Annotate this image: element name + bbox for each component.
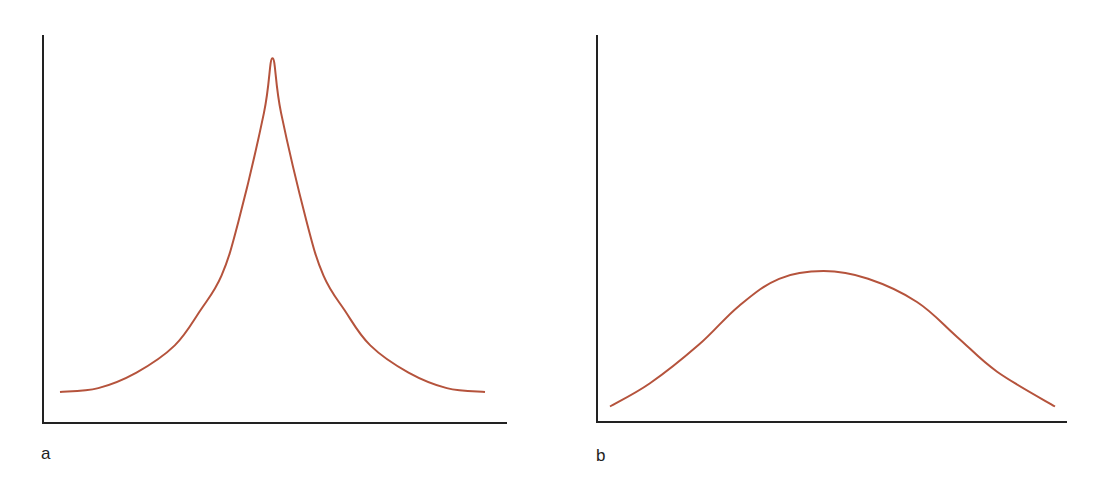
panel-a-axes [42, 35, 507, 424]
panel-b-curve [610, 271, 1055, 406]
panel-b-label: b [596, 446, 605, 466]
panel-a-curve [60, 58, 485, 392]
panel-b-axes [596, 35, 1067, 423]
chart-canvas [0, 0, 1101, 479]
panel-a-label: a [41, 444, 50, 464]
